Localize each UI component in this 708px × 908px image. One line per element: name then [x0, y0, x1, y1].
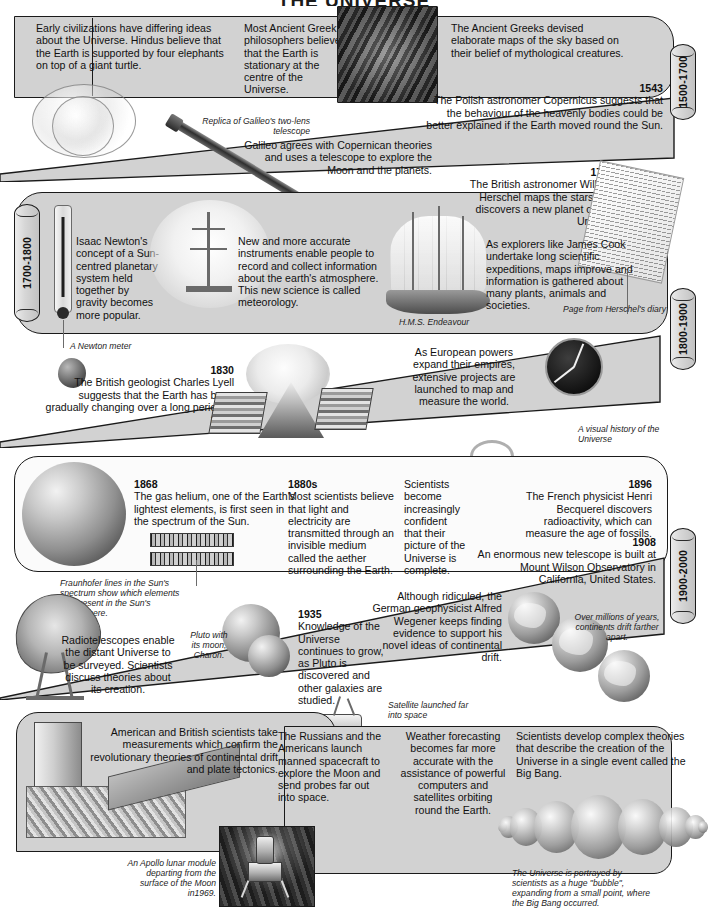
entry-plate-tectonics: American and British scientists take mea… — [82, 726, 278, 775]
entry-wegener: Although ridiculed, the German geophysic… — [370, 590, 502, 664]
compass-needle-south — [554, 366, 575, 383]
era-tab-1800-1900: 1800-1900 — [670, 288, 696, 370]
era-label-1700-1800: 1700-1800 — [21, 237, 33, 289]
thermometer-stem — [62, 217, 65, 298]
era-label-1500-1700: 1500-1700 — [677, 56, 689, 108]
era-label-1800-1900: 1800-1900 — [677, 303, 689, 355]
entry-weather: Weather forecasting becomes far more acc… — [400, 730, 506, 816]
year-1908: 1908 — [476, 536, 656, 548]
entry-mount-wilson: 1908 An enormous new telescope is built … — [476, 536, 656, 585]
year-1781: 1781 — [446, 166, 614, 178]
lunar-module-ascent-stage — [256, 836, 274, 864]
year-1880s: 1880s — [288, 478, 394, 490]
entry-copernicus: 1543 The Polish astronomer Copernicus su… — [420, 82, 663, 131]
era-label-1900-2000: 1900-2000 — [677, 550, 689, 602]
caption-bubble-universe: The Universe is portrayed by scientists … — [512, 868, 658, 908]
entry-radiotelescopes: Radiotelescopes enable the distant Unive… — [60, 634, 176, 695]
era-tab3-cap-bottom — [672, 357, 694, 366]
caption-satellite: Satellite launched far into space — [388, 700, 480, 720]
caption-visual-history: A visual history of the Universe — [578, 424, 686, 444]
era-tab-1500-1700: 1500-1700 — [670, 44, 696, 120]
weather-station-crossarm-1 — [192, 228, 225, 230]
era-tab2-cap-top — [16, 208, 38, 217]
entry-meteorology: New and more accurate instruments enable… — [238, 235, 398, 309]
rock-strata-right — [314, 388, 373, 430]
entry-early-civilizations: Early civilizations have differing ideas… — [36, 22, 226, 71]
era-tab-cap-bottom — [672, 107, 694, 116]
entry-greek-sky-maps: The Ancient Greeks devised elaborate map… — [451, 22, 627, 59]
rock-strata-left — [208, 392, 267, 434]
thermometer-bulb — [57, 307, 69, 319]
earth-globe-3 — [598, 650, 650, 702]
lunar-module-body — [248, 862, 282, 882]
compass-needle-north — [573, 344, 584, 368]
year-1868: 1868 — [134, 478, 298, 490]
entry-helium: 1868 The gas helium, one of the Earth's … — [134, 478, 298, 527]
entry-big-bang: Scientists develop complex theories that… — [516, 730, 688, 779]
era-tab3-cap-top — [672, 292, 694, 301]
entry-lyell: 1830 The British geologist Charles Lyell… — [38, 364, 234, 425]
entry-newton: Isaac Newton's concept of a Sun-centred … — [76, 235, 162, 321]
weather-station-crossarm-2 — [190, 248, 227, 250]
entry-lyell-body: The British geologist Charles Lyell sugg… — [46, 376, 234, 425]
entry-mount-wilson-body: An enormous new telescope is built at Mo… — [478, 548, 656, 585]
entry-helium-body: The gas helium, one of the Earth's light… — [134, 490, 295, 527]
era-tab4-cap-bottom — [672, 611, 694, 620]
entry-copernicus-body: The Polish astronomer Copernicus suggest… — [426, 94, 663, 131]
era-tab2-cap-bottom — [16, 309, 38, 318]
damaged-building-illustration — [34, 722, 82, 796]
era-tab-1900-2000: 1900-2000 — [670, 528, 696, 624]
radiotelescope-base — [26, 696, 84, 700]
year-1896: 1896 — [506, 478, 652, 490]
bubble-9 — [698, 821, 708, 833]
era-tab4-cap-top — [672, 532, 694, 541]
entry-explorers: As explorers like James Cook undertake l… — [486, 238, 636, 312]
weather-station-mast — [207, 212, 210, 290]
entry-greek-philosophers: Most Ancient Greek philosophers believe … — [244, 22, 344, 96]
caption-apollo: An Apollo lunar module departing from th… — [124, 858, 216, 898]
charon-moon-sphere — [248, 635, 290, 677]
entry-galileo: Galileo agrees with Copernican theories … — [236, 139, 432, 176]
endeavour-hull — [386, 290, 490, 314]
era-tab-1700-1800: 1700-1800 — [14, 204, 40, 322]
year-1543: 1543 — [420, 82, 663, 94]
compass-illustration — [545, 338, 603, 396]
entry-empires: As European powers expand their empires,… — [396, 346, 532, 407]
entry-space-race: The Russians and the Americans launch ma… — [278, 730, 382, 804]
caption-endeavour: H.M.S. Endeavour — [372, 317, 496, 327]
caption-continents-drift: Over millions of years, continents drift… — [568, 612, 666, 642]
caption-pluto-charon: Pluto with its moon, Charon. — [186, 630, 232, 660]
big-bang-bubble-chain — [498, 792, 708, 862]
caption-galileo-telescope: Replica of Galileo's two-lens telescope — [190, 116, 310, 136]
weather-station-base — [186, 286, 232, 292]
year-1830: 1830 — [38, 364, 234, 376]
newton-meter-illustration — [54, 205, 72, 313]
